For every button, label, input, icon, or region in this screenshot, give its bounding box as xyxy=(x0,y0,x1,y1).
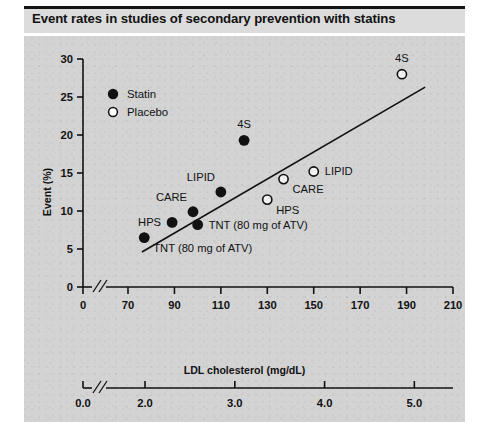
data-point-label: 4S xyxy=(395,52,409,64)
legend-marker-statin xyxy=(108,89,118,99)
legend-marker-placebo xyxy=(109,108,118,117)
x-tick-label: 190 xyxy=(397,299,416,311)
y-tick-label: 5 xyxy=(67,243,73,255)
figure-title: Event rates in studies of secondary prev… xyxy=(32,11,395,26)
y-tick-label: 25 xyxy=(61,91,73,103)
data-point-placebo xyxy=(397,70,406,79)
secondary-x-tick-label: 3.0 xyxy=(227,397,243,409)
data-point-label: TNT (80 mg of ATV) xyxy=(209,219,308,231)
y-tick-label: 0 xyxy=(67,281,73,293)
secondary-x-tick-label: 5.0 xyxy=(407,397,423,409)
data-point-label: LIPID xyxy=(187,171,215,183)
legend-label: Placebo xyxy=(127,106,168,118)
data-point-label: HPS xyxy=(138,216,161,228)
x-tick-label: 150 xyxy=(304,299,323,311)
y-tick-label: 15 xyxy=(61,167,73,179)
data-point-statin xyxy=(215,187,226,198)
x-axis-title-mgdl: LDL cholesterol (mg/dL) xyxy=(24,364,465,376)
x-tick-label: 110 xyxy=(212,299,230,311)
secondary-x-tick-label: 2.0 xyxy=(137,397,153,409)
data-point-statin xyxy=(139,232,150,243)
y-tick-label: 20 xyxy=(61,129,73,141)
x-tick-label: 130 xyxy=(258,299,277,311)
data-point-placebo xyxy=(279,174,288,183)
data-point-label: 4S xyxy=(237,118,251,130)
data-point-label: LIPID xyxy=(325,165,353,177)
data-point-statin xyxy=(167,217,178,228)
data-point-placebo xyxy=(309,167,318,176)
y-tick-label: 30 xyxy=(61,53,73,65)
secondary-x-tick-label: 0.0 xyxy=(75,397,91,409)
x-tick-label: 70 xyxy=(122,299,134,311)
data-point-placebo xyxy=(263,195,272,204)
x-tick-label: 210 xyxy=(444,299,463,311)
data-point-label: HPS xyxy=(276,204,299,216)
data-point-statin xyxy=(192,219,203,230)
data-point-label: TNT (80 mg of ATV) xyxy=(153,242,252,254)
plot-area: 051015202530070901101301501701902100.02.… xyxy=(24,36,465,422)
legend-label: Statin xyxy=(127,88,156,100)
figure-panel: Event rates in studies of secondary prev… xyxy=(0,0,490,436)
x-tick-label: 0 xyxy=(80,299,86,311)
data-point-statin xyxy=(239,135,250,146)
data-point-label: CARE xyxy=(156,191,187,203)
y-tick-label: 10 xyxy=(61,205,73,217)
data-point-statin xyxy=(188,206,199,217)
secondary-x-tick-label: 4.0 xyxy=(317,397,333,409)
x-tick-label: 170 xyxy=(351,299,370,311)
x-tick-label: 90 xyxy=(168,299,180,311)
y-axis-title: Event (%) xyxy=(41,147,53,237)
data-point-label: CARE xyxy=(293,183,324,195)
